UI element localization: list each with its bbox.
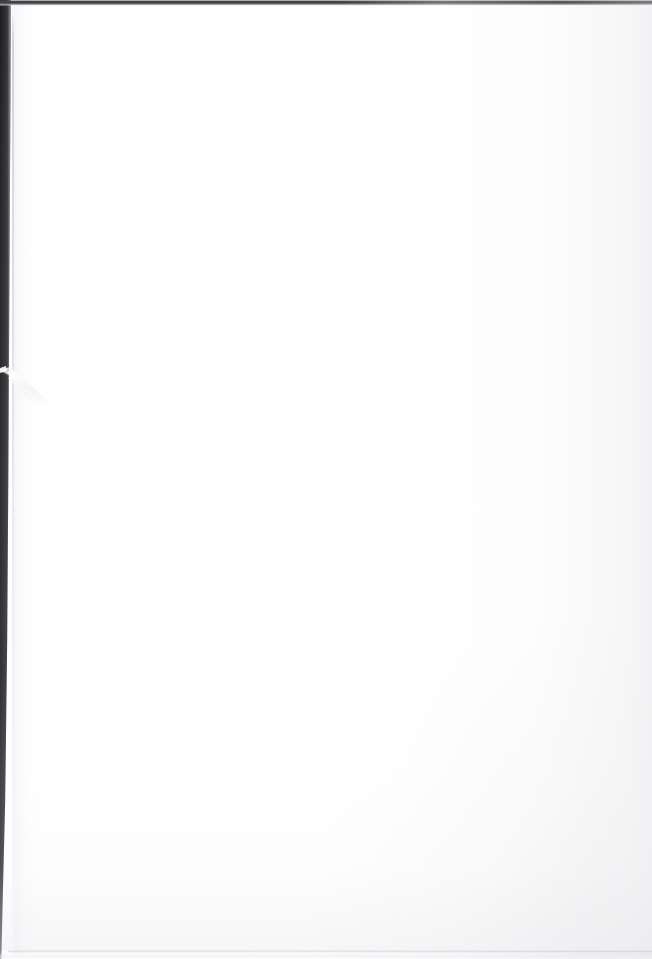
top-scanner-strip-highlight	[0, 0, 652, 6]
scanned-page	[0, 0, 652, 959]
paper-edge-line	[12, 4, 14, 956]
bottom-edge-gradient	[0, 952, 652, 959]
page-content-area	[60, 70, 580, 890]
